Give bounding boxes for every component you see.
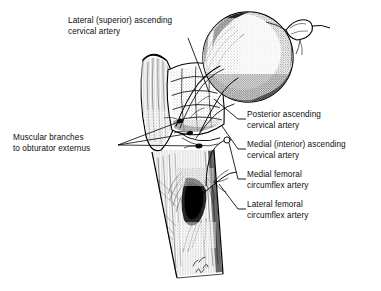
label-line-1: Lateral (superior) ascending bbox=[68, 16, 172, 25]
label-line-2: circumflex artery bbox=[247, 181, 308, 190]
label-medial-interior-ascending-cervical-artery: Medial (interior) ascendingcervical arte… bbox=[247, 140, 346, 161]
label-line-2: cervical artery bbox=[247, 121, 299, 130]
label-medial-femoral-circumflex-artery: Medial femoralcircumflex artery bbox=[247, 170, 308, 191]
label-line-1: Lateral femoral bbox=[247, 200, 303, 209]
label-muscular-branches-to-obturator-externus: Muscular branchesto obturator externus bbox=[13, 133, 90, 154]
label-line-2: cervical artery bbox=[247, 151, 299, 160]
label-lateral-superior-ascending-cervical-artery: Lateral (superior) ascendingcervical art… bbox=[68, 16, 172, 37]
label-line-1: Medial femoral bbox=[247, 170, 302, 179]
label-line-1: Muscular branches bbox=[13, 133, 84, 142]
label-line-2: cervical artery bbox=[68, 27, 120, 36]
label-line-2: to obturator externus bbox=[13, 144, 90, 153]
label-line-1: Posterior ascending bbox=[247, 110, 321, 119]
label-line-1: Medial (interior) ascending bbox=[247, 140, 346, 149]
label-line-2: circumflex artery bbox=[247, 211, 308, 220]
label-lateral-femoral-circumflex-artery: Lateral femoralcircumflex artery bbox=[247, 200, 308, 221]
label-posterior-ascending-cervical-artery: Posterior ascendingcervical artery bbox=[247, 110, 321, 131]
